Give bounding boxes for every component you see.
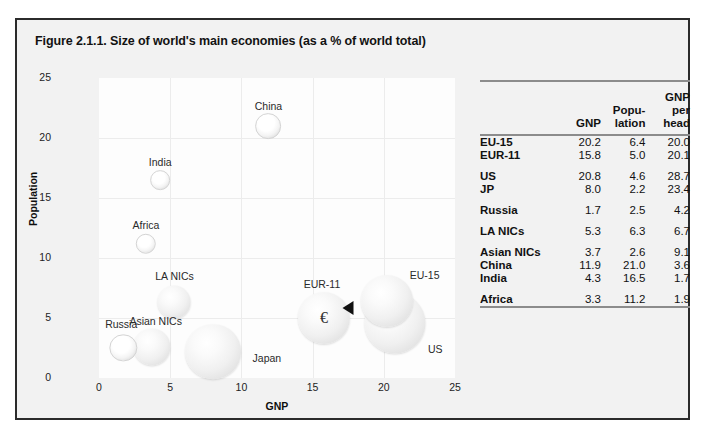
cell-economy-name: China <box>480 259 556 272</box>
x-axis-tick: 15 <box>293 381 333 393</box>
cell-gnp-per-head: 6.7 <box>645 225 690 238</box>
x-axis-tick: 5 <box>150 381 190 393</box>
bubble-india[interactable] <box>150 170 170 190</box>
spacer-cell <box>556 196 601 204</box>
spacer-cell <box>556 217 601 225</box>
bubble-label-la-nics: LA NICs <box>155 270 194 282</box>
cell-gnp: 3.3 <box>556 293 601 307</box>
spacer-cell <box>645 238 690 246</box>
spacer-gnp-per-head <box>645 81 690 91</box>
cell-population: 2.5 <box>601 204 646 217</box>
header-gnp-per-head-line2: per <box>672 104 690 116</box>
cell-population: 11.2 <box>601 293 646 307</box>
spacer-cell <box>645 162 690 170</box>
header-population-line1: Popu- <box>613 104 646 116</box>
bubble-asian-nics[interactable] <box>133 328 170 365</box>
table-row: Asian NICs3.72.69.1 <box>480 246 690 259</box>
cell-gnp: 20.2 <box>556 135 601 149</box>
header-gnp-per-head-line1: GNP <box>665 91 690 103</box>
header-gnp: GNP <box>556 91 601 135</box>
table-row: China11.921.03.6 <box>480 259 690 272</box>
economies-table: GNP Popu- lation GNP per head EU-1520.26… <box>480 80 690 308</box>
spacer-cell <box>601 196 646 204</box>
table-row: Africa3.311.21.9 <box>480 293 690 307</box>
spacer-cell <box>480 162 556 170</box>
spacer-cell <box>556 162 601 170</box>
y-gridline <box>99 258 455 259</box>
spacer-cell <box>480 238 556 246</box>
spacer-cell <box>601 162 646 170</box>
spacer-cell <box>556 238 601 246</box>
cell-population: 6.4 <box>601 135 646 149</box>
spacer-cell <box>480 285 556 293</box>
x-gridline <box>241 78 242 378</box>
cell-gnp-per-head: 9.1 <box>645 246 690 259</box>
x-axis-label: GNP <box>99 400 455 412</box>
spacer-cell <box>601 238 646 246</box>
spacer-cell <box>645 285 690 293</box>
cell-economy-name: JP <box>480 183 556 196</box>
y-axis-tick: 15 <box>15 191 51 203</box>
table-group-spacer <box>480 162 690 170</box>
header-population-line2: lation <box>615 117 646 129</box>
header-gnp-per-head-line3: head <box>663 117 690 129</box>
table-group-spacer <box>480 196 690 204</box>
cell-economy-name: EUR-11 <box>480 149 556 162</box>
bubble-eu-15[interactable] <box>361 275 413 327</box>
cell-population: 5.0 <box>601 149 646 162</box>
cell-economy-name: India <box>480 272 556 285</box>
cell-gnp: 8.0 <box>556 183 601 196</box>
x-axis-tick: 10 <box>221 381 261 393</box>
table-header-row: GNP Popu- lation GNP per head <box>480 91 690 135</box>
cell-economy-name: Africa <box>480 293 556 307</box>
cell-economy-name: Russia <box>480 204 556 217</box>
spacer-gnp <box>556 81 601 91</box>
table-group-spacer <box>480 217 690 225</box>
cell-economy-name: Asian NICs <box>480 246 556 259</box>
spacer-cell <box>480 217 556 225</box>
cell-gnp: 15.8 <box>556 149 601 162</box>
cell-gnp-per-head: 20.1 <box>645 149 690 162</box>
cell-gnp-per-head: 3.6 <box>645 259 690 272</box>
figure-title: Figure 2.1.1. Size of world's main econo… <box>35 34 426 48</box>
cell-population: 2.2 <box>601 183 646 196</box>
table-body: EU-1520.26.420.0EUR-1115.85.020.1US20.84… <box>480 135 690 307</box>
table-top-rule-row <box>480 81 690 91</box>
bubble-russia[interactable] <box>110 334 137 361</box>
table-group-spacer <box>480 238 690 246</box>
cell-population: 21.0 <box>601 259 646 272</box>
bubble-label-russia: Russia <box>105 318 137 330</box>
spacer-cell <box>601 285 646 293</box>
cell-gnp-per-head: 23.4 <box>645 183 690 196</box>
bubble-china[interactable] <box>256 113 282 139</box>
bubble-label-china: China <box>255 100 282 112</box>
table-corner-spacer <box>480 81 556 91</box>
header-corner <box>480 91 556 135</box>
cell-gnp-per-head: 4.2 <box>645 204 690 217</box>
cell-gnp: 3.7 <box>556 246 601 259</box>
spacer-cell <box>556 285 601 293</box>
plot-area: ChinaIndiaAfricaLA NICsAsian NICsRussiaJ… <box>99 78 455 378</box>
table-head: GNP Popu- lation GNP per head <box>480 81 690 135</box>
header-gnp-per-head: GNP per head <box>645 91 690 135</box>
bubble-japan[interactable] <box>185 324 241 380</box>
bubble-africa[interactable] <box>136 233 156 253</box>
cell-gnp-per-head: 20.0 <box>645 135 690 149</box>
cell-population: 6.3 <box>601 225 646 238</box>
bubble-label-japan: Japan <box>253 352 282 364</box>
cell-economy-name: LA NICs <box>480 225 556 238</box>
table-row: US20.84.628.7 <box>480 170 690 183</box>
x-axis-tick: 20 <box>364 381 404 393</box>
cell-gnp: 5.3 <box>556 225 601 238</box>
cell-gnp: 1.7 <box>556 204 601 217</box>
cell-population: 4.6 <box>601 170 646 183</box>
bubble-label-india: India <box>149 156 172 168</box>
y-axis-tick: 10 <box>15 251 51 263</box>
cell-population: 2.6 <box>601 246 646 259</box>
cell-economy-name: US <box>480 170 556 183</box>
cell-gnp-per-head: 1.7 <box>645 272 690 285</box>
spacer-cell <box>645 217 690 225</box>
x-gridline <box>170 78 171 378</box>
cell-gnp: 20.8 <box>556 170 601 183</box>
y-axis-tick: 5 <box>15 311 51 323</box>
